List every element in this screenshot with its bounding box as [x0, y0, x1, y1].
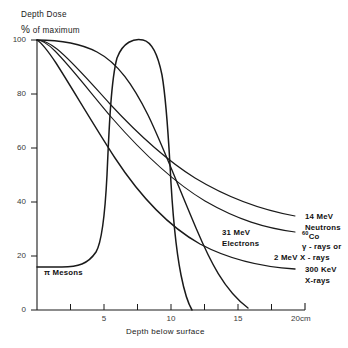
series-label-electrons: 31 MeV Electrons: [222, 228, 259, 249]
x-tick-label-15: 15: [223, 314, 253, 323]
y-tick-label-60: 60: [0, 143, 26, 152]
series-label-cobalt60-line2: γ - rays or: [302, 242, 341, 253]
cobalt60-mass-number: 60: [302, 230, 309, 236]
series-label-pi-mesons-line1: π Mesons: [44, 268, 83, 279]
cobalt60-element: Co: [309, 232, 320, 241]
series-label-cobalt60-line1: 60Co: [302, 228, 341, 242]
y-tick-label-40: 40: [0, 197, 26, 206]
series-label-xrays300kev-line1: 300 KeV: [305, 265, 337, 276]
y-tick-label-20: 20: [0, 251, 26, 260]
series-label-electrons-line2: Electrons: [222, 239, 259, 250]
series-label-electrons-line1: 31 MeV: [222, 228, 259, 239]
series-label-cobalt60-line3: 2 MeV X - rays: [274, 253, 341, 264]
x-axis-title: Depth below surface: [126, 327, 205, 336]
chart-canvas: [0, 0, 348, 348]
series-label-cobalt60: 60Co γ - rays or 2 MeV X - rays: [302, 228, 341, 263]
series-label-xrays300kev: 300 KeV X-rays: [305, 265, 337, 286]
x-tick-label-20cm: 20cm: [291, 314, 331, 323]
series-label-neutrons-line1: 14 MeV: [305, 212, 341, 223]
series-path-neutrons: [37, 40, 295, 216]
series-path-cobalt60: [37, 40, 295, 232]
y-axis-ticks: [31, 40, 37, 310]
depth-dose-chart: Depth Dose % of maximum: [0, 0, 348, 348]
series-label-xrays300kev-line2: X-rays: [305, 276, 337, 287]
y-tick-label-80: 80: [0, 89, 26, 98]
y-tick-label-100: 100: [0, 35, 26, 44]
x-axis-ticks: [71, 304, 272, 310]
series-label-pi-mesons: π Mesons: [44, 268, 83, 279]
x-tick-label-5: 5: [89, 314, 119, 323]
x-tick-label-10: 10: [156, 314, 186, 323]
y-tick-label-0: 0: [0, 305, 26, 314]
